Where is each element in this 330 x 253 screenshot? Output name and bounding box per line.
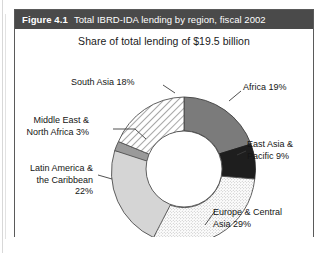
figure-container: Figure 4.1 Total IBRD-IDA lending by reg…: [14, 9, 314, 237]
leader-line-south-asia: [163, 85, 175, 93]
slice-label-africa: Africa 19%: [243, 82, 287, 94]
leader-line-africa: [229, 91, 241, 101]
figure-title-text: Total IBRD-IDA lending by region, fiscal…: [74, 14, 266, 25]
page-scan-edge-line: [2, 0, 3, 253]
slice-label-south-asia-line1: South Asia 18%: [71, 77, 135, 89]
leader-line-latin-america: [98, 175, 112, 179]
slice-label-europe-central-asia-line2: Asia 29%: [213, 219, 282, 231]
slice-label-latin-america-caribbean-line2: the Caribbean: [30, 175, 93, 187]
slice-label-east-asia-pacific-line2: Pacific 9%: [247, 151, 293, 163]
slice-label-middle-east-north-africa-line2: North Africa 3%: [26, 127, 89, 139]
slice-label-east-asia-pacific-line1: East Asia &: [247, 139, 293, 151]
slice-label-south-asia: South Asia 18%: [71, 77, 135, 89]
figure-number-label: Figure 4.1: [22, 14, 68, 25]
page-scan-edge-line-secondary: [5, 14, 6, 239]
slice-label-latin-america-caribbean: Latin America & the Caribbean 22%: [30, 163, 93, 198]
donut-chart: South Asia 18% Africa 19% East Asia & Pa…: [15, 29, 315, 237]
figure-title-bar: Figure 4.1 Total IBRD-IDA lending by reg…: [15, 10, 313, 29]
slice-label-east-asia-pacific: East Asia & Pacific 9%: [247, 139, 293, 162]
donut-hole: [146, 131, 222, 207]
slice-label-middle-east-north-africa: Middle East & North Africa 3%: [26, 115, 89, 138]
slice-label-latin-america-caribbean-line1: Latin America &: [30, 163, 93, 175]
slice-label-europe-central-asia: Europe & Central Asia 29%: [213, 207, 282, 230]
slice-label-middle-east-north-africa-line1: Middle East &: [26, 115, 89, 127]
figure-body: Share of total lending of $19.5 billion: [15, 29, 313, 237]
slice-label-africa-line1: Africa 19%: [243, 82, 287, 94]
slice-label-latin-america-caribbean-line3: 22%: [30, 186, 93, 198]
slice-label-europe-central-asia-line1: Europe & Central: [213, 207, 282, 219]
